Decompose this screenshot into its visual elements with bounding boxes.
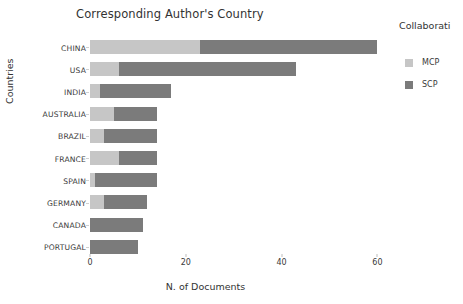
y-axis-category-label: PORTUGAL (6, 243, 86, 252)
x-axis-tick-mark (90, 254, 91, 257)
bar-row: FRANCE (90, 147, 387, 169)
bar-row: SPAIN (90, 169, 387, 191)
y-axis-category-label: CHINA (6, 44, 86, 53)
x-axis-tick-label: 60 (372, 258, 382, 267)
y-axis-category-label: INDIA (6, 88, 86, 97)
chart-container: Corresponding Author's Country CHINAUSAI… (0, 0, 463, 304)
x-axis-ticks: 0204060 (90, 258, 390, 282)
bar-row: CHINA (90, 36, 387, 58)
y-axis-category-label: BRAZIL (6, 132, 86, 141)
y-axis-category-label: GERMANY (6, 199, 86, 208)
y-axis-category-label: USA (6, 66, 86, 75)
bar-segment-mcp (90, 195, 104, 209)
y-axis-category-label: SPAIN (6, 177, 86, 186)
bar-segment-scp (114, 107, 157, 121)
y-axis-label: Countries (4, 58, 15, 104)
x-axis-tick-label: 40 (277, 258, 287, 267)
bar-row: PORTUGAL (90, 236, 387, 258)
y-axis-tick-mark (86, 158, 89, 159)
x-axis-tick-label: 0 (87, 258, 92, 267)
bar-row: AUSTRALIA (90, 103, 387, 125)
x-axis-tick-mark (377, 254, 378, 257)
bar-segment-mcp (90, 84, 100, 98)
bar-row: USA (90, 58, 387, 80)
y-axis-tick-mark (86, 225, 89, 226)
y-axis-tick-mark (86, 180, 89, 181)
stacked-bar (90, 40, 377, 54)
stacked-bar (90, 129, 157, 143)
plot-area: CHINAUSAINDIAAUSTRALIABRAZILFRANCESPAING… (90, 36, 387, 258)
y-axis-tick-mark (86, 92, 89, 93)
bar-segment-scp (104, 129, 157, 143)
bar-segment-mcp (90, 62, 119, 76)
y-axis-category-label: AUSTRALIA (6, 110, 86, 119)
bar-segment-mcp (90, 129, 104, 143)
bar-segment-scp (90, 218, 143, 232)
legend-swatch-icon (405, 59, 413, 67)
bar-segment-mcp (90, 151, 119, 165)
legend-item-mcp[interactable]: MCP (405, 58, 439, 67)
y-axis-category-label: CANADA (6, 221, 86, 230)
chart-title: Corresponding Author's Country (76, 7, 264, 21)
bar-segment-scp (200, 40, 377, 54)
bar-segment-scp (90, 240, 138, 254)
bar-segment-scp (95, 173, 157, 187)
x-axis-tick-mark (185, 254, 186, 257)
stacked-bar (90, 62, 296, 76)
stacked-bar (90, 218, 143, 232)
legend-title: Collaborati (399, 20, 450, 31)
legend-label: SCP (422, 80, 438, 89)
x-axis-tick-mark (281, 254, 282, 257)
stacked-bar (90, 84, 171, 98)
stacked-bar (90, 151, 157, 165)
y-axis-category-label: FRANCE (6, 155, 86, 164)
bar-row: INDIA (90, 80, 387, 102)
bar-row: GERMANY (90, 191, 387, 213)
x-axis-label: N. of Documents (0, 281, 463, 292)
y-axis-tick-mark (86, 136, 89, 137)
bar-segment-mcp (90, 107, 114, 121)
bar-row: CANADA (90, 214, 387, 236)
x-axis-tick-label: 20 (181, 258, 191, 267)
stacked-bar (90, 240, 138, 254)
bar-segment-scp (104, 195, 147, 209)
bar-segment-scp (100, 84, 172, 98)
bar-row: BRAZIL (90, 125, 387, 147)
stacked-bar (90, 173, 157, 187)
legend-swatch-icon (405, 81, 413, 89)
y-axis-tick-mark (86, 114, 89, 115)
legend-label: MCP (422, 58, 439, 67)
y-axis-tick-mark (86, 203, 89, 204)
y-axis-tick-mark (86, 247, 89, 248)
bar-segment-mcp (90, 40, 200, 54)
bar-segment-scp (119, 62, 296, 76)
stacked-bar (90, 195, 147, 209)
bar-segment-scp (119, 151, 157, 165)
legend-item-scp[interactable]: SCP (405, 80, 438, 89)
stacked-bar (90, 107, 157, 121)
y-axis-tick-mark (86, 69, 89, 70)
x-axis-label-text: N. of Documents (166, 281, 246, 292)
y-axis-tick-mark (86, 47, 89, 48)
